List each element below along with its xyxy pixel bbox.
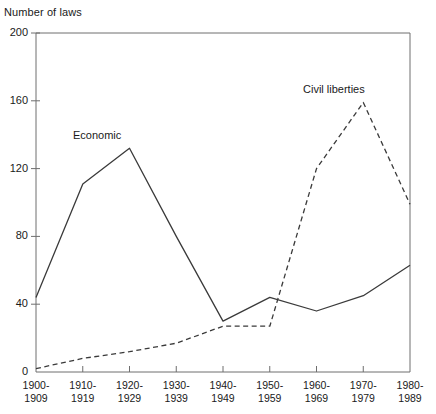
y-tick-label: 0 xyxy=(2,365,28,377)
x-tick-label: 1980-1989 xyxy=(388,379,432,405)
y-tick-label: 80 xyxy=(2,229,28,241)
series-line-economic xyxy=(36,148,410,321)
x-tick-label-bottom: 1929 xyxy=(108,392,152,405)
x-tick-label-bottom: 1949 xyxy=(201,392,245,405)
x-tick-label-top: 1950- xyxy=(248,379,292,392)
x-tick-label-bottom: 1909 xyxy=(14,392,58,405)
x-tick-label: 1930-1939 xyxy=(154,379,198,405)
plot-area xyxy=(0,0,436,414)
x-tick-label-top: 1980- xyxy=(388,379,432,392)
x-tick-label: 1900-1909 xyxy=(14,379,58,405)
x-tick-label-top: 1920- xyxy=(108,379,152,392)
x-axis-ticks xyxy=(83,366,364,372)
x-tick-label-bottom: 1959 xyxy=(248,392,292,405)
x-tick-label-top: 1930- xyxy=(154,379,198,392)
x-tick-label-bottom: 1979 xyxy=(341,392,385,405)
x-tick-label-bottom: 1939 xyxy=(154,392,198,405)
x-tick-label: 1940-1949 xyxy=(201,379,245,405)
y-tick-label: 120 xyxy=(2,162,28,174)
line-chart: Number of laws 04080120160200 1900-19091… xyxy=(0,0,436,414)
y-tick-label: 200 xyxy=(2,26,28,38)
x-tick-label: 1950-1959 xyxy=(248,379,292,405)
x-tick-label: 1920-1929 xyxy=(108,379,152,405)
x-tick-label-bottom: 1919 xyxy=(61,392,105,405)
x-tick-label-top: 1940- xyxy=(201,379,245,392)
x-tick-label-top: 1910- xyxy=(61,379,105,392)
series-annotation-economic: Economic xyxy=(73,129,121,141)
x-tick-label: 1960-1969 xyxy=(295,379,339,405)
y-tick-label: 40 xyxy=(2,297,28,309)
x-tick-label: 1910-1919 xyxy=(61,379,105,405)
series-line-civil-liberties xyxy=(36,103,410,369)
x-tick-label-top: 1970- xyxy=(341,379,385,392)
y-tick-label: 160 xyxy=(2,94,28,106)
x-tick-label-bottom: 1989 xyxy=(388,392,432,405)
series-annotation-civil-liberties: Civil liberties xyxy=(303,83,365,95)
x-tick-label-top: 1900- xyxy=(14,379,58,392)
x-tick-label-top: 1960- xyxy=(295,379,339,392)
x-tick-label: 1970-1979 xyxy=(341,379,385,405)
x-tick-label-bottom: 1969 xyxy=(295,392,339,405)
